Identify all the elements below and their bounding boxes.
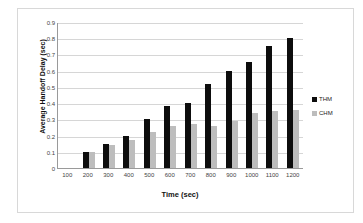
bar-group [78, 23, 98, 168]
x-axis-tick-labels: 100200300400500600700800900100011001200 [57, 172, 303, 178]
bar-group [221, 23, 241, 168]
bar-group [160, 23, 180, 168]
bar-chm-400 [129, 140, 135, 168]
bar-group [58, 23, 78, 168]
bar-chm-1100 [272, 111, 278, 168]
x-axis-tick-label: 400 [119, 172, 140, 178]
bar-group [99, 23, 119, 168]
bar-chm-600 [170, 126, 176, 168]
bar-chm-700 [191, 124, 197, 168]
x-axis-tick-label: 200 [78, 172, 99, 178]
y-axis-tick-label: 0.8 [33, 36, 55, 42]
y-axis-tick-label: 0 [33, 166, 55, 172]
y-axis-tick-label: 0.3 [33, 117, 55, 123]
x-axis-tick-label: 700 [180, 172, 201, 178]
x-axis-tick-label: 1200 [283, 172, 304, 178]
bar-group [262, 23, 282, 168]
legend-swatch-icon [312, 111, 317, 116]
x-axis-tick-label: 1000 [242, 172, 263, 178]
bar-chm-200 [89, 152, 95, 168]
chart-figure: Average Handoff Delay (sec) 0.90.80.70.6… [0, 0, 363, 223]
x-axis-title: Time (sec) [57, 190, 303, 199]
plot-area [57, 23, 303, 169]
bar-chm-300 [109, 145, 115, 168]
legend-label: CHM [319, 110, 333, 116]
y-axis-tick-label: 0.9 [33, 20, 55, 26]
bar-group [242, 23, 262, 168]
chart-legend: THMCHM [312, 96, 350, 124]
bar-group [283, 23, 303, 168]
bar-group [201, 23, 221, 168]
y-axis-tick-label: 0.4 [33, 101, 55, 107]
bar-chm-800 [211, 126, 217, 168]
bar-chm-500 [150, 132, 156, 168]
legend-item-thm[interactable]: THM [312, 96, 350, 102]
legend-swatch-icon [312, 97, 317, 102]
x-axis-tick-label: 100 [57, 172, 78, 178]
bars-layer [58, 23, 303, 168]
y-axis-tick-label: 0.2 [33, 134, 55, 140]
x-axis-tick-label: 300 [98, 172, 119, 178]
x-axis-tick-label: 500 [139, 172, 160, 178]
bar-chm-1200 [293, 110, 299, 168]
y-axis-tick-label: 0.7 [33, 52, 55, 58]
bar-chm-900 [232, 121, 238, 168]
bar-group [140, 23, 160, 168]
x-axis-tick-label: 1100 [262, 172, 283, 178]
x-axis-tick-label: 800 [201, 172, 222, 178]
bar-group [119, 23, 139, 168]
y-axis-tick-labels: 0.90.80.70.60.50.40.30.20.10 [31, 23, 55, 169]
y-axis-tick-label: 0.5 [33, 85, 55, 91]
y-axis-tick-label: 0.6 [33, 69, 55, 75]
legend-item-chm[interactable]: CHM [312, 110, 350, 116]
legend-label: THM [319, 96, 332, 102]
bar-group [181, 23, 201, 168]
bar-chm-1000 [252, 113, 258, 168]
x-axis-tick-label: 900 [221, 172, 242, 178]
y-axis-tick-label: 0.1 [33, 150, 55, 156]
x-axis-tick-label: 600 [160, 172, 181, 178]
